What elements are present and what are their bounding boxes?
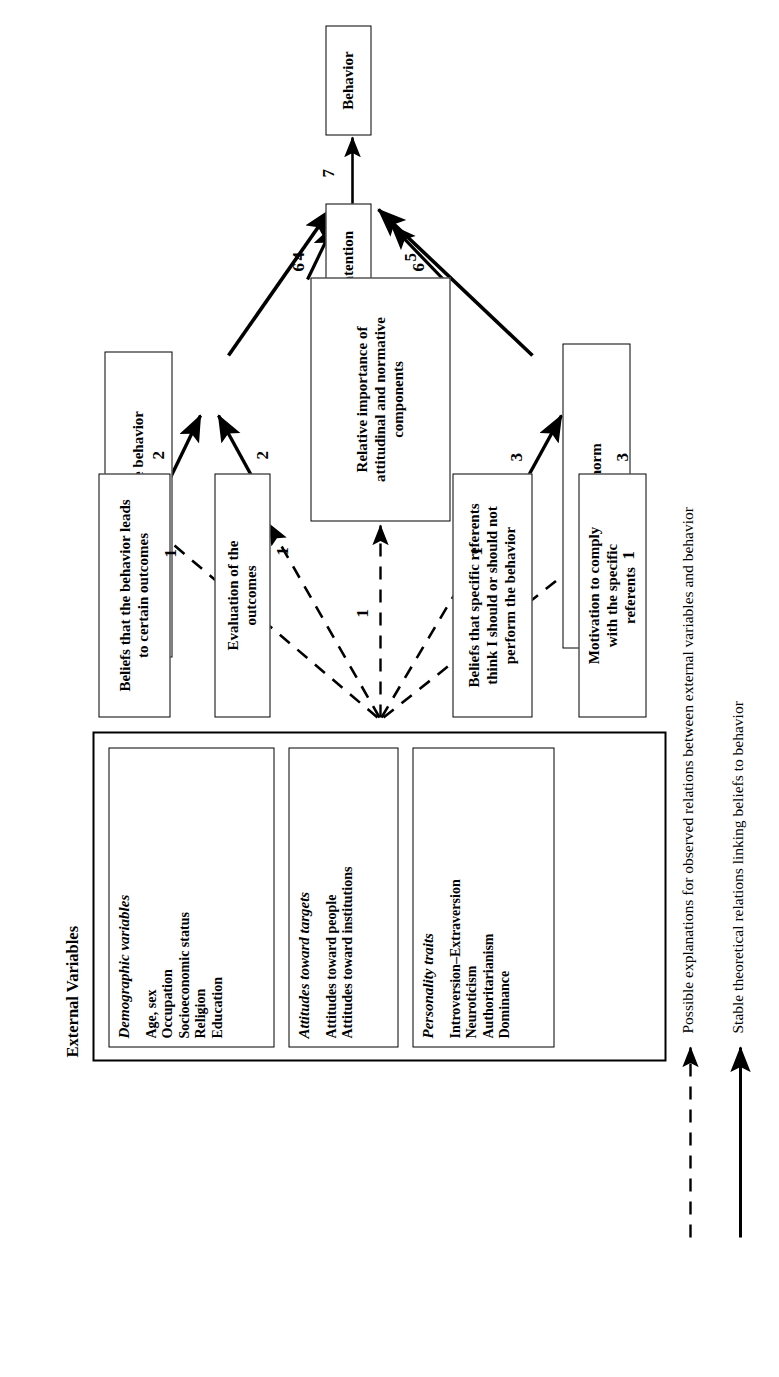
edge-label-1-evaluation: 1 bbox=[272, 547, 292, 556]
group-heading: Demographic variables bbox=[115, 756, 133, 1038]
edge-label-2-beliefs: 2 bbox=[148, 451, 168, 460]
edge-label-7: 7 bbox=[318, 169, 338, 178]
group-item: Dominance bbox=[496, 756, 513, 1038]
group-item: Authoritarianism bbox=[480, 756, 497, 1038]
node-relative-importance[interactable]: Relative importance of attitudinal and n… bbox=[310, 277, 450, 521]
edge-label-1-beliefs: 1 bbox=[160, 549, 180, 558]
edge-label-2-evaluation: 2 bbox=[252, 451, 272, 460]
edge-label-6-left: 6 bbox=[288, 263, 308, 272]
group-item: Occupation bbox=[159, 756, 176, 1038]
legend-item-possible-explanations: Possible explanations for observed relat… bbox=[678, 507, 696, 1033]
group-item: Neuroticism bbox=[463, 756, 480, 1038]
node-behavior[interactable]: Behavior bbox=[325, 25, 371, 135]
node-beliefs-referents[interactable]: Beliefs that specific referents think I … bbox=[452, 473, 532, 717]
group-item: Religion bbox=[192, 756, 209, 1038]
group-item: Education bbox=[209, 756, 226, 1038]
figure-canvas: Behavior Intention Attitude toward the b… bbox=[0, 0, 779, 1377]
edge-label-1-relimp: 1 bbox=[352, 609, 372, 618]
external-group-attitudes-targets[interactable]: Attitudes toward targets Attitudes towar… bbox=[288, 747, 398, 1047]
group-item: Attitudes toward people bbox=[323, 756, 340, 1038]
group-heading: Attitudes toward targets bbox=[295, 756, 313, 1038]
node-beliefs-outcomes[interactable]: Beliefs that the behavior leads to certa… bbox=[98, 473, 170, 717]
edge-label-1-referents: 1 bbox=[466, 547, 486, 556]
edge-label-3-motivation: 3 bbox=[612, 453, 632, 462]
external-group-personality-traits[interactable]: Personality traits Introversion–Extraver… bbox=[412, 747, 554, 1047]
node-evaluation-outcomes[interactable]: Evaluation of the outcomes bbox=[214, 473, 270, 717]
node-motivation-comply-label: Motivation to comply with the specific r… bbox=[585, 515, 638, 675]
group-item: Attitudes toward institutions bbox=[339, 756, 356, 1038]
node-beliefs-outcomes-label: Beliefs that the behavior leads to certa… bbox=[116, 492, 151, 698]
group-item: Introversion–Extraversion bbox=[447, 756, 464, 1038]
edge-label-1-motivation: 1 bbox=[618, 551, 638, 560]
node-motivation-comply[interactable]: Motivation to comply with the specific r… bbox=[578, 473, 646, 717]
edge-label-4: 4 bbox=[288, 252, 308, 261]
group-item: Age, sex bbox=[143, 756, 160, 1038]
edge-label-5: 5 bbox=[400, 253, 420, 262]
node-relative-importance-label: Relative importance of attitudinal and n… bbox=[353, 296, 406, 502]
external-variables-title: External Variables bbox=[62, 925, 82, 1057]
node-behavior-label: Behavior bbox=[339, 51, 357, 109]
group-item: Socioeconomic status bbox=[176, 756, 193, 1038]
legend-item-stable-relations: Stable theoretical relations linking bel… bbox=[728, 701, 746, 1033]
group-heading: Personality traits bbox=[419, 756, 437, 1038]
external-group-demographic[interactable]: Demographic variables Age, sex Occupatio… bbox=[108, 747, 274, 1047]
rotated-figure: Behavior Intention Attitude toward the b… bbox=[0, 0, 779, 1377]
node-evaluation-outcomes-label: Evaluation of the outcomes bbox=[224, 520, 259, 670]
edge-label-3-referents: 3 bbox=[506, 453, 526, 462]
edge-label-6-right: 6 bbox=[408, 263, 428, 272]
node-beliefs-referents-label: Beliefs that specific referents think I … bbox=[465, 487, 518, 703]
